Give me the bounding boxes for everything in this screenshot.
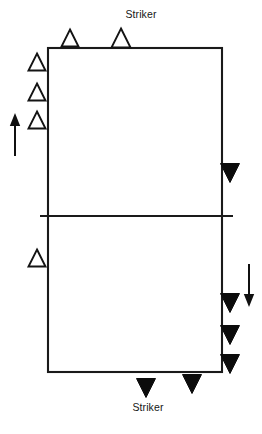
open-triangle-left-1 [29, 54, 46, 71]
open-triangle-group [29, 29, 131, 267]
open-triangle-top-striker [112, 29, 131, 48]
open-triangle-left-3 [29, 112, 46, 129]
arrow-up-left-icon [10, 113, 20, 156]
filled-triangle-bottom-striker [137, 379, 156, 398]
filled-triangle-right-2 [221, 294, 240, 313]
court-rectangle [48, 48, 222, 372]
open-triangle-top-left [62, 30, 79, 47]
open-triangle-left-4 [29, 250, 46, 267]
arrow-down-right-icon [244, 264, 254, 307]
striker-label-bottom: Striker [132, 401, 163, 413]
filled-triangle-right-1 [221, 164, 240, 183]
striker-label-top: Striker [125, 8, 156, 20]
filled-triangle-right-4 [221, 355, 240, 374]
open-triangle-left-2 [29, 84, 46, 101]
court-diagram: Striker Striker [0, 0, 262, 434]
filled-triangle-group [137, 164, 240, 398]
filled-triangle-right-3 [221, 326, 240, 345]
filled-triangle-bottom-right [183, 375, 202, 394]
diagram-canvas: Striker Striker [0, 0, 262, 434]
